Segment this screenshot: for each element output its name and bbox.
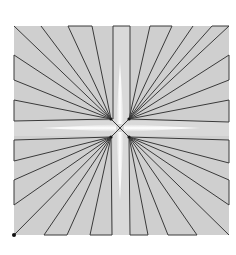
- hub-bottom-left: [109, 135, 112, 138]
- star-fan-diagram: [0, 0, 236, 255]
- hub-top-left: [109, 117, 112, 120]
- hub-top-right: [127, 117, 130, 120]
- corner-marker: [12, 233, 16, 237]
- hub-bottom-right: [127, 135, 130, 138]
